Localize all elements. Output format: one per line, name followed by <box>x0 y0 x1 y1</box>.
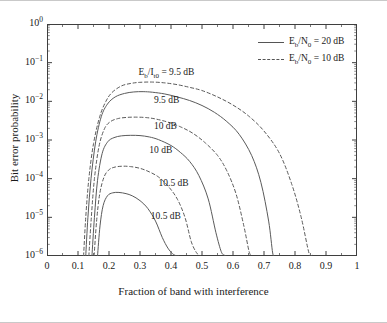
curve-label-2: 9.5 dB <box>154 95 179 105</box>
x-tick-label: 0.7 <box>249 260 279 271</box>
y-tick-label: 10−6 <box>3 249 43 260</box>
x-tick-label: 0.9 <box>311 260 341 271</box>
x-tick-label: 0.4 <box>156 260 186 271</box>
curve-1 <box>84 82 315 256</box>
curve-2 <box>86 92 275 256</box>
x-tick-label: 0.6 <box>218 260 248 271</box>
legend-swatch-dashed <box>258 59 284 60</box>
x-tick-label: 0.5 <box>187 260 217 271</box>
curve-6 <box>98 192 179 256</box>
curve-label-4: 10 dB <box>149 145 172 155</box>
curve-label-5: 10.5 dB <box>159 178 189 188</box>
x-tick-label: 0.3 <box>125 260 155 271</box>
legend-swatch-solid <box>258 42 284 43</box>
x-tick-label: 1 <box>342 260 372 271</box>
x-axis-title: Fraction of band with interference <box>0 285 387 297</box>
x-tick-label: 0.2 <box>94 260 124 271</box>
curve-label-1: Eb/It0 = 9.5 dB <box>138 67 194 77</box>
legend-label-2: Eb/N0 = 10 dB <box>289 53 344 63</box>
y-tick-label: 10−5 <box>3 210 43 221</box>
x-tick-label: 0.1 <box>63 260 93 271</box>
curves-group <box>84 82 315 256</box>
legend-label-1: Eb/N0 = 20 dB <box>289 36 344 46</box>
curve-label-3: 10 dB <box>154 121 177 131</box>
y-tick-label: 100 <box>3 17 43 28</box>
y-axis-title: Bit error probability <box>8 68 20 208</box>
y-tick-label: 10−1 <box>3 56 43 67</box>
x-tick-label: 0 <box>32 260 62 271</box>
x-tick-label: 0.8 <box>280 260 310 271</box>
figure-container: 00.10.20.30.40.50.60.70.80.91 10010−110−… <box>0 0 387 323</box>
curve-label-6: 10.5 dB <box>151 211 181 221</box>
page-rule-top <box>0 0 387 1</box>
